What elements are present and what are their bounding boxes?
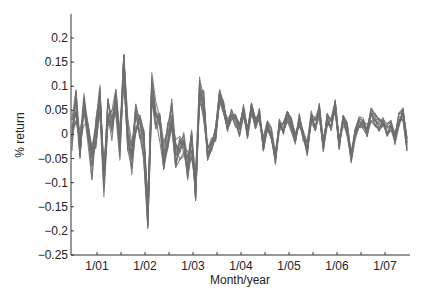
line-chart: −0.25−0.2−0.15−0.1−0.0500.050.10.150.21/… <box>0 0 430 301</box>
y-tick-label: −0.25 <box>38 248 69 262</box>
y-axis-title: % return <box>13 112 27 157</box>
series-bundle <box>72 55 407 228</box>
x-tick-label: 1/05 <box>277 259 301 273</box>
y-tick-label: 0 <box>61 127 68 141</box>
y-tick-label: 0.05 <box>45 103 69 117</box>
y-tick-label: −0.05 <box>38 152 69 166</box>
y-tick-label: −0.2 <box>44 224 68 238</box>
y-tick-label: 0.1 <box>51 79 68 93</box>
x-tick-label: 1/02 <box>133 259 157 273</box>
x-tick-label: 1/03 <box>181 259 205 273</box>
y-tick-label: 0.15 <box>45 55 69 69</box>
x-tick-label: 1/07 <box>373 259 397 273</box>
x-tick-label: 1/06 <box>325 259 349 273</box>
return-series-line <box>72 55 407 228</box>
x-tick-label: 1/04 <box>229 259 253 273</box>
y-tick-label: −0.1 <box>44 176 68 190</box>
chart-container: −0.25−0.2−0.15−0.1−0.0500.050.10.150.21/… <box>0 0 430 301</box>
return-series-line <box>72 75 407 211</box>
y-tick-label: 0.2 <box>51 31 68 45</box>
y-tick-label: −0.15 <box>38 200 69 214</box>
x-axis-title: Month/year <box>210 273 270 287</box>
x-tick-label: 1/01 <box>85 259 109 273</box>
